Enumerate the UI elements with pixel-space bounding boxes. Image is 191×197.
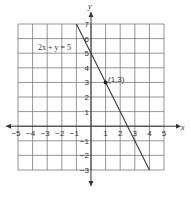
equation-label: 2x + y = 5: [38, 43, 71, 52]
y-tick-label: 4: [85, 64, 90, 73]
y-tick-label: 2: [85, 93, 90, 102]
x-axis-arrow-left: [6, 124, 11, 129]
x-tick-label: −5: [11, 129, 21, 138]
x-tick-label: 4: [147, 129, 152, 138]
x-tick-label: 5: [162, 129, 167, 138]
tick-labels: −5−4−3−2−1123457654321−1−2−3: [11, 20, 166, 175]
y-tick-label: −1: [80, 137, 90, 146]
y-tick-label: 1: [85, 108, 90, 117]
y-axis-arrow-up: [89, 12, 94, 17]
x-tick-label: −2: [55, 129, 65, 138]
x-tick-label: 2: [118, 129, 123, 138]
y-tick-label: 3: [85, 78, 90, 87]
point-label: (1,3): [108, 75, 125, 84]
y-tick-label: −2: [80, 151, 90, 160]
y-tick-label: −3: [80, 166, 90, 175]
x-tick-label: −4: [26, 129, 36, 138]
points: [104, 80, 108, 84]
point-1-3: [104, 80, 108, 84]
x-tick-label: −1: [70, 129, 80, 138]
y-tick-label: 5: [85, 49, 90, 58]
y-axis-label: y: [87, 2, 92, 11]
y-axis-arrow-down: [89, 181, 94, 186]
coordinate-plane: −5−4−3−2−1123457654321−1−2−3 2x + y = 5 …: [0, 0, 191, 197]
y-tick-label: 7: [85, 20, 90, 29]
x-tick-label: 1: [103, 129, 108, 138]
x-axis-label: x: [180, 123, 185, 132]
x-tick-label: −3: [41, 129, 51, 138]
